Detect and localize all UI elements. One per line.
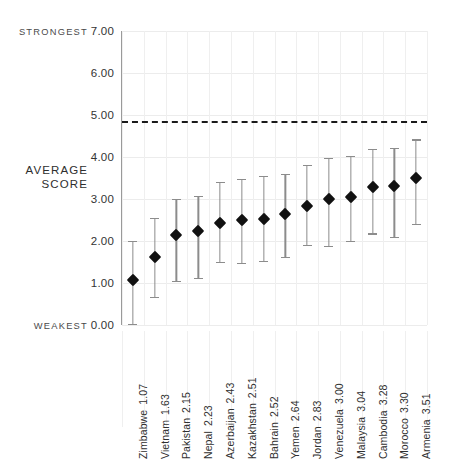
y-axis-tick-label: 5.00 <box>72 109 114 121</box>
data-point-marker[interactable] <box>148 250 161 263</box>
y-axis-tick-label: 2.00 <box>72 235 114 247</box>
error-bar-cap-lower <box>194 278 203 279</box>
error-bar-cap-lower <box>324 246 333 247</box>
data-point-marker[interactable] <box>279 208 292 221</box>
x-axis-label-value: 1.07 <box>137 384 149 405</box>
y-axis-tick-label: 1.00 <box>72 277 114 289</box>
x-axis-label-country: Malaysia <box>355 417 367 459</box>
x-axis-label-value: 2.43 <box>224 383 236 404</box>
gridline-vertical <box>275 31 276 325</box>
gridline-vertical <box>383 31 384 325</box>
x-axis-label: Vietnam1.63 <box>159 331 171 459</box>
x-axis-label-value: 1.63 <box>159 394 171 415</box>
gridline-vertical <box>166 31 167 325</box>
data-point-group[interactable] <box>285 31 286 325</box>
data-point-group[interactable] <box>220 31 221 325</box>
x-axis-label-value: 3.00 <box>333 383 345 404</box>
data-point-marker[interactable] <box>301 200 314 213</box>
data-point-group[interactable] <box>242 31 243 325</box>
error-bar-cap-lower <box>412 224 421 225</box>
gridline-vertical <box>187 31 188 325</box>
x-axis-label: Yemen2.64 <box>289 331 301 459</box>
x-axis-label-country: Zimbabwe <box>137 410 149 459</box>
gridline-vertical <box>144 31 145 325</box>
x-axis-label: Cambodia3.28 <box>377 331 389 459</box>
data-point-group[interactable] <box>373 31 374 325</box>
error-bar-cap-lower <box>237 263 246 264</box>
x-axis-label: Venezuela3.00 <box>333 331 345 459</box>
error-bar-cap-upper <box>412 139 421 140</box>
data-point-group[interactable] <box>351 31 352 325</box>
y-axis-tick-label: 4.00 <box>72 151 114 163</box>
data-point-marker[interactable] <box>214 217 227 230</box>
data-point-marker[interactable] <box>257 213 270 226</box>
x-axis-label: Malaysia3.04 <box>355 331 367 459</box>
x-axis-label-country: Kazakhstan <box>246 403 258 459</box>
error-bar-cap-upper <box>324 158 333 159</box>
x-axis-label: Morocco3.30 <box>398 331 410 459</box>
x-axis-label-country: Nepal <box>202 431 214 459</box>
x-axis-label-value: 2.83 <box>311 400 323 421</box>
data-point-group[interactable] <box>264 31 265 325</box>
data-point-marker[interactable] <box>127 274 140 287</box>
data-point-group[interactable] <box>198 31 199 325</box>
data-point-group[interactable] <box>133 31 134 325</box>
error-bar-cap-upper <box>128 241 137 242</box>
threshold-line <box>122 121 427 123</box>
gridline-vertical <box>231 31 232 325</box>
x-axis-label-country: Venezuela <box>333 409 345 459</box>
error-bar-cap-lower <box>281 257 290 258</box>
data-point-group[interactable] <box>176 31 177 325</box>
x-axis-label: Armenia3.51 <box>420 331 432 459</box>
gridline-vertical <box>318 31 319 325</box>
error-bar-cap-upper <box>237 179 246 180</box>
error-bar-cap-upper <box>259 176 268 177</box>
gridline-vertical <box>209 31 210 325</box>
data-point-marker[interactable] <box>323 193 336 206</box>
axis-annotation-weakest: WEAKEST <box>8 321 88 331</box>
x-axis-label-value: 2.52 <box>268 396 280 417</box>
gridline-vertical <box>296 31 297 325</box>
x-axis-label-country: Pakistan <box>180 418 192 459</box>
data-point-group[interactable] <box>329 31 330 325</box>
x-axis-label-country: Cambodia <box>377 410 389 459</box>
data-point-marker[interactable] <box>192 225 205 238</box>
data-point-group[interactable] <box>307 31 308 325</box>
error-bar-cap-upper <box>194 196 203 197</box>
plot-area <box>122 31 427 325</box>
data-point-marker[interactable] <box>388 180 401 193</box>
x-axis-label: Azerbaijan2.43 <box>224 331 236 459</box>
error-bar-cap-upper <box>172 199 181 200</box>
y-axis-tick-label: 6.00 <box>72 67 114 79</box>
x-axis-label-value: 2.64 <box>289 400 301 421</box>
data-point-marker[interactable] <box>344 191 357 204</box>
x-axis-label-country: Armenia <box>420 419 432 459</box>
data-point-group[interactable] <box>155 31 156 325</box>
error-bar-cap-lower <box>216 262 225 263</box>
x-axis-label-country: Jordan <box>311 426 323 459</box>
x-axis-label-value: 3.51 <box>420 393 432 414</box>
error-bar-cap-lower <box>346 241 355 242</box>
x-axis-label: Kazakhstan2.51 <box>246 331 258 459</box>
y-axis-line <box>121 31 122 325</box>
data-point-group[interactable] <box>394 31 395 325</box>
x-axis-label: Nepal2.23 <box>202 331 214 459</box>
x-axis-label-value: 3.30 <box>398 392 410 413</box>
data-point-marker[interactable] <box>410 171 423 184</box>
axis-annotation-strongest: STRONGEST <box>8 27 88 37</box>
x-axis-label-value: 3.28 <box>377 384 389 405</box>
x-axis-label: Bahrain2.52 <box>268 331 280 459</box>
gridline-vertical <box>427 31 428 325</box>
x-axis-label-value: 2.51 <box>246 377 258 398</box>
error-bar-cap-upper <box>216 182 225 183</box>
x-axis-label: Zimbabwe1.07 <box>137 331 149 459</box>
error-bar-cap-upper <box>346 156 355 157</box>
data-point-marker[interactable] <box>366 181 379 194</box>
x-axis-category-labels: Zimbabwe1.07Vietnam1.63Pakistan2.15Nepal… <box>122 331 427 461</box>
gridline-vertical <box>362 31 363 325</box>
data-point-marker[interactable] <box>170 228 183 241</box>
error-bar-cap-upper <box>303 165 312 166</box>
data-point-marker[interactable] <box>235 213 248 226</box>
error-bar-cap-lower <box>259 261 268 262</box>
data-point-group[interactable] <box>416 31 417 325</box>
